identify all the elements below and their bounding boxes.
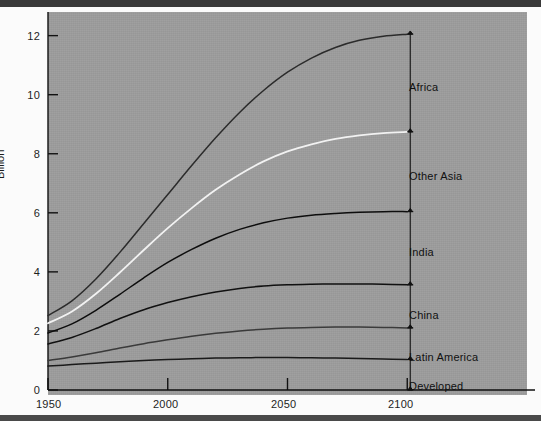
curve-developed xyxy=(48,357,407,366)
scan-edge-top xyxy=(0,0,541,7)
curve-other-asia xyxy=(48,132,407,323)
x-axis-ticks xyxy=(48,378,407,390)
bracket-cap-0 xyxy=(407,387,413,390)
scanned-figure-page: Billion 12 10 8 6 4 2 0 1950 2000 2050 2… xyxy=(0,0,541,421)
scan-edge-bottom xyxy=(0,415,541,421)
curve-latin-america xyxy=(48,327,407,360)
bracket-cap-1 xyxy=(407,356,413,359)
bracket-cap-5 xyxy=(407,129,413,132)
chart-svg xyxy=(0,7,541,415)
series-curves xyxy=(48,34,407,366)
bracket-cap-2 xyxy=(407,325,413,328)
bracket-cap-3 xyxy=(407,282,413,285)
y-axis-ticks xyxy=(48,36,58,390)
curve-china xyxy=(48,284,407,344)
population-projection-chart: Billion 12 10 8 6 4 2 0 1950 2000 2050 2… xyxy=(0,7,541,415)
bracket-cap-4 xyxy=(407,208,413,211)
region-brackets xyxy=(407,31,413,390)
bracket-cap-6 xyxy=(407,31,413,34)
axes xyxy=(48,12,535,390)
curve-africa xyxy=(48,34,407,315)
